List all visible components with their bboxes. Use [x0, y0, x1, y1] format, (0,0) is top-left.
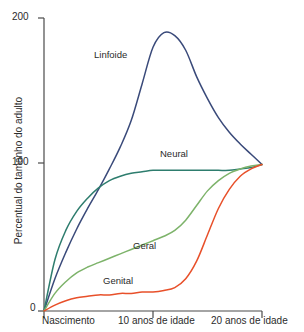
x-tick-label-twenty-years: 20 anos de idade	[211, 316, 288, 326]
y-tick-label-200: 200	[12, 12, 29, 22]
series-label-genital: Genital	[103, 276, 133, 286]
scammon-growth-curves-chart: Percentual do tamanho do adulto 200 100 …	[0, 0, 304, 332]
axes-group	[38, 18, 262, 318]
y-axis-title: Percentual do tamanho do adulto	[13, 91, 24, 251]
x-tick-label-birth: Nascimento	[42, 316, 95, 326]
curve-linfoide	[44, 32, 262, 311]
curve-genital	[44, 165, 262, 312]
curve-neural	[44, 165, 262, 312]
series-label-linfoide: Linfoide	[94, 50, 127, 60]
curve-geral	[44, 165, 262, 312]
series-label-geral: Geral	[133, 241, 156, 251]
series-label-neural: Neural	[160, 149, 188, 159]
series-curves-group	[44, 32, 262, 311]
y-tick-label-100: 100	[12, 157, 29, 167]
x-tick-label-ten-years: 10 anos de idade	[118, 316, 195, 326]
chart-plot-area	[0, 0, 304, 332]
y-tick-label-0: 0	[30, 303, 36, 313]
